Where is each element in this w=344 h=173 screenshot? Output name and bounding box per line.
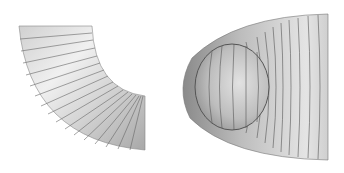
figure-canvas — [0, 0, 344, 173]
inner-opening — [195, 44, 269, 130]
pipe-end-view — [183, 14, 328, 160]
pipe-elbow — [19, 26, 145, 150]
